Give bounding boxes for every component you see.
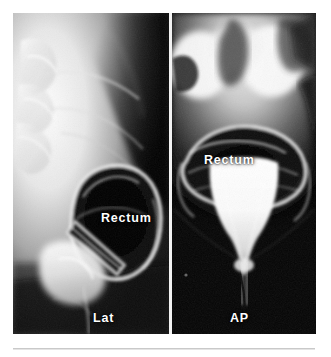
radiograph-figure: Rectum Lat (13, 13, 316, 334)
caption-divider-rule (13, 348, 315, 350)
radiograph-panel-lat: Rectum Lat (13, 13, 169, 334)
xray-image-lat (13, 13, 169, 334)
radiograph-panel-ap: Rectum AP (172, 13, 316, 334)
xray-image-ap (172, 13, 316, 334)
